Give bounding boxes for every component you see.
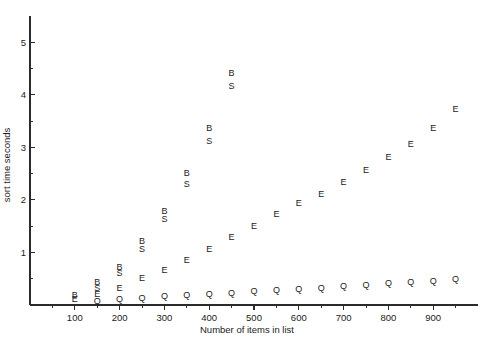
data-point-S: S [139, 244, 145, 254]
data-point-Q: Q [318, 283, 325, 293]
series-B: BBBBBBBB [72, 68, 235, 300]
data-point-Q: Q [452, 274, 459, 284]
data-point-Q: Q [138, 293, 145, 303]
x-tick-label: 700 [336, 312, 352, 323]
x-tick-label: 100 [67, 312, 83, 323]
scatter-chart: 10020030040050060070080090012345 BBBBBBB… [0, 0, 484, 339]
data-point-E: E [430, 123, 436, 133]
data-point-E: E [318, 189, 324, 199]
x-tick-label: 600 [291, 312, 307, 323]
x-axis-title: Number of items in list [200, 324, 294, 335]
tick-label-layer: 10020030040050060070080090012345 [21, 37, 441, 323]
data-point-S: S [229, 81, 235, 91]
data-point-Q: Q [250, 286, 257, 296]
y-tick-label: 2 [21, 194, 26, 205]
data-point-E: E [296, 198, 302, 208]
series-Q: QQQQQQQQQQQQQQQQQ [94, 274, 459, 306]
data-point-E: E [139, 273, 145, 283]
data-point-E: E [184, 255, 190, 265]
series-E: EEEEEEEEEEEEEEEEEE [72, 104, 459, 304]
series-S: SSSSSSS [94, 81, 234, 292]
data-point-Q: Q [385, 278, 392, 288]
data-point-Q: Q [161, 291, 168, 301]
x-tick-label: 800 [380, 312, 396, 323]
data-point-E: E [161, 265, 167, 275]
x-tick-label: 200 [112, 312, 128, 323]
data-point-S: S [206, 136, 212, 146]
data-point-S: S [161, 214, 167, 224]
y-axis-title: sort time seconds [1, 128, 12, 203]
data-point-E: E [206, 244, 212, 254]
data-point-Q: Q [340, 281, 347, 291]
plot-area: 10020030040050060070080090012345 BBBBBBB… [0, 0, 484, 339]
data-point-E: E [385, 152, 391, 162]
axis-layer [30, 16, 478, 305]
data-point-E: E [117, 283, 123, 293]
data-point-E: E [251, 221, 257, 231]
data-point-Q: Q [116, 294, 123, 304]
data-points-layer: BBBBBBBBSSSSSSSEEEEEEEEEEEEEEEEEEQQQQQQQ… [72, 68, 459, 306]
data-point-E: E [273, 209, 279, 219]
data-point-Q: Q [228, 288, 235, 298]
data-point-Q: Q [206, 289, 213, 299]
data-point-E: E [72, 294, 78, 304]
x-tick-label: 500 [246, 312, 262, 323]
data-point-B: B [229, 68, 235, 78]
y-tick-label: 3 [21, 142, 26, 153]
data-point-E: E [363, 165, 369, 175]
data-point-S: S [184, 179, 190, 189]
data-point-Q: Q [295, 284, 302, 294]
data-point-E: E [341, 177, 347, 187]
data-point-Q: Q [273, 285, 280, 295]
data-point-B: B [184, 168, 190, 178]
data-point-Q: Q [94, 296, 101, 306]
data-point-Q: Q [362, 280, 369, 290]
data-point-E: E [408, 139, 414, 149]
data-point-E: E [229, 232, 235, 242]
data-point-B: B [206, 123, 212, 133]
y-tick-label: 5 [21, 37, 26, 48]
data-point-Q: Q [183, 290, 190, 300]
data-point-Q: Q [407, 277, 414, 287]
y-tick-label: 4 [21, 89, 26, 100]
x-tick-label: 400 [201, 312, 217, 323]
x-tick-label: 300 [156, 312, 172, 323]
data-point-E: E [453, 104, 459, 114]
x-tick-label: 900 [425, 312, 441, 323]
tick-layer [30, 42, 456, 310]
data-point-Q: Q [430, 276, 437, 286]
data-point-S: S [117, 268, 123, 278]
y-tick-label: 1 [21, 247, 26, 258]
